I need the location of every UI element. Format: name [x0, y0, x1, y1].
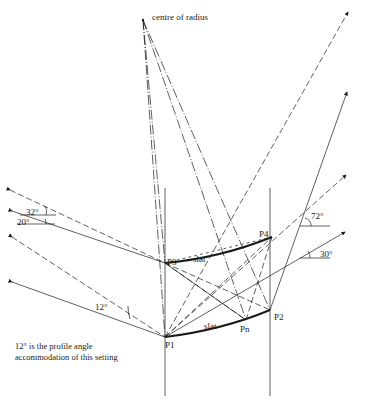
- note-text: 12° is the profile angle accommodation o…: [15, 341, 118, 363]
- p1-label: P1: [165, 340, 175, 350]
- note-line-2: accommodation of this setting: [15, 352, 118, 363]
- diag-p3-pn: [165, 263, 246, 320]
- p3-label: P3: [167, 257, 177, 267]
- note-line-1: 12° is the profile angle: [15, 341, 118, 352]
- ray-out-solid-72: [270, 92, 347, 310]
- arc-12: [128, 306, 130, 319]
- p2-label: P2: [274, 312, 284, 322]
- angle-20-label: 20°: [17, 217, 30, 227]
- ray-out-solid-30: [165, 232, 345, 337]
- angle-30-label: 30°: [320, 249, 333, 259]
- ray-out-dashed-steep: [165, 12, 348, 337]
- slat-top-label: slat: [193, 254, 206, 264]
- ray-20-solid: [12, 211, 165, 263]
- slat-bottom-curve: [165, 310, 270, 337]
- ray-32-dashed: [10, 190, 165, 263]
- angle-72-label: 72°: [311, 211, 324, 221]
- centre-of-radius-label: centre of radius: [152, 12, 208, 22]
- slat-profile-diagram: centre of radius P1 P2 P3 P4 Pn slat sla…: [0, 0, 366, 402]
- angle-32-label: 32°: [26, 207, 39, 217]
- ray-32-cont: [165, 263, 270, 310]
- diag-p1-p4: [165, 237, 272, 337]
- arc-20: [45, 219, 46, 224]
- p4-label: P4: [259, 229, 269, 239]
- radius-line-p3: [143, 20, 165, 263]
- pn-label: Pn: [240, 324, 250, 334]
- angle-12-label: 12°: [95, 302, 108, 312]
- slat-bottom-label: slat: [204, 321, 217, 331]
- ray-12-solid: [12, 282, 165, 337]
- radius-lines: [143, 20, 270, 337]
- arc-30: [308, 251, 310, 258]
- centre-point: [142, 19, 144, 21]
